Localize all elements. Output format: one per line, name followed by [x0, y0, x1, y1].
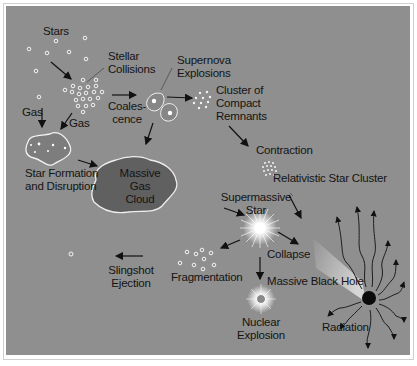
label-supermassive-star: Supermassive Star [220, 191, 292, 217]
label-relativistic-star-cluster: Relativistic Star Cluster [273, 172, 387, 185]
label-line: Massive [115, 167, 165, 180]
label-line: Collisions [108, 63, 155, 76]
label-massive-black-hole: Massive Black Hole [267, 275, 364, 288]
label-cluster-compact-remnants: Cluster of Compact Remnants [216, 84, 267, 123]
label-collapse: Collapse [267, 248, 310, 261]
label-radiation: Radiation [322, 321, 369, 334]
label-line: Supernova [177, 54, 231, 67]
label-line: Gas [115, 180, 165, 193]
label-coalescence: Coales- cence [107, 100, 147, 126]
label-supernova-explosions: Supernova Explosions [177, 54, 231, 80]
label-line: Explosion [234, 329, 288, 342]
label-line: and Disruption [25, 180, 98, 193]
label-line: Slingshot [103, 264, 159, 277]
label-line: Compact [216, 97, 267, 110]
label-contraction: Contraction [256, 144, 313, 157]
nuclear-explosion-icon [246, 284, 276, 314]
label-massive-gas-cloud: Massive Gas Cloud [115, 167, 165, 206]
label-stars: Stars [43, 25, 69, 38]
label-line: Coales- [107, 100, 147, 113]
stellar-collision-cluster-icon [63, 78, 104, 114]
label-line: Nuclear [234, 316, 288, 329]
collapse-beam-icon [313, 238, 366, 302]
label-line: Star [220, 204, 292, 217]
black-hole-icon [362, 291, 376, 305]
ejected-star-icon [69, 252, 73, 256]
label-stellar-collisions: Stellar Collisions [108, 50, 155, 76]
label-line: Ejection [103, 277, 159, 290]
label-gas-left: Gas [22, 106, 43, 119]
label-line: Cluster of [216, 84, 267, 97]
compact-remnants-icon [193, 91, 211, 109]
label-line: cence [107, 113, 147, 126]
label-line: Supermassive [220, 191, 292, 204]
label-line: Stellar [108, 50, 155, 63]
label-slingshot-ejection: Slingshot Ejection [103, 264, 159, 290]
label-gas-right: Gas [69, 117, 90, 130]
label-line: Remnants [216, 110, 267, 123]
star-formation-cloud-icon [26, 133, 71, 165]
label-star-formation: Star Formation and Disruption [25, 167, 98, 193]
fragmentation-stars-icon [178, 248, 216, 271]
label-line: Cloud [115, 193, 165, 206]
label-line: Explosions [177, 67, 231, 80]
label-nuclear-explosion: Nuclear Explosion [234, 316, 288, 342]
label-fragmentation: Fragmentation [171, 271, 243, 284]
label-line: Star Formation [25, 167, 98, 180]
